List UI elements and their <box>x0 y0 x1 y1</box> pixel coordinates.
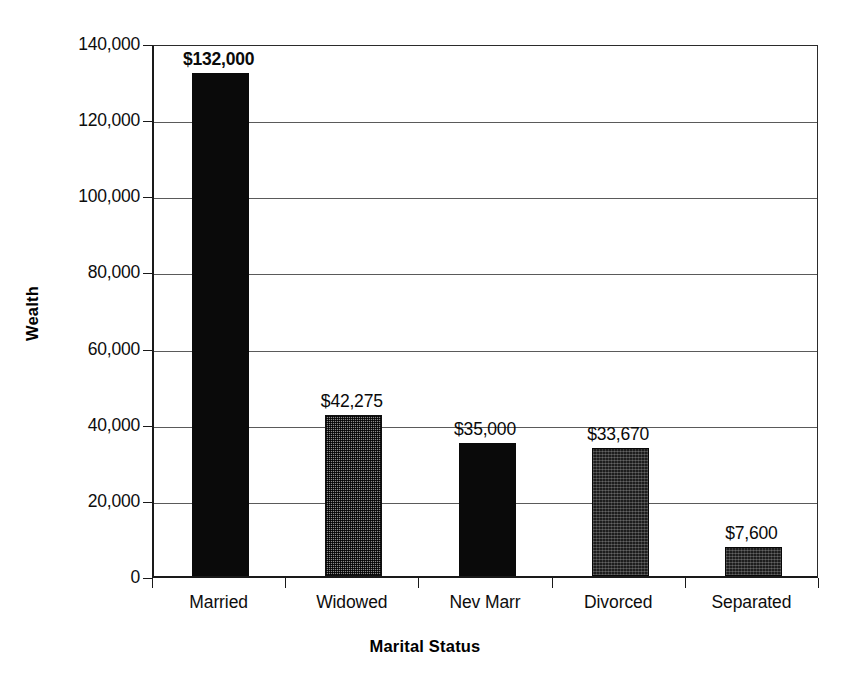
y-tick-mark <box>143 121 152 122</box>
gridline <box>154 351 817 352</box>
x-category-label: Married <box>152 592 285 613</box>
y-tick-label: 60,000 <box>4 339 140 360</box>
y-tick-mark <box>143 45 152 46</box>
x-tick-mark <box>285 578 286 588</box>
gridline <box>154 274 817 275</box>
y-tick-mark <box>143 273 152 274</box>
bar-divorced <box>592 448 649 576</box>
gridline <box>154 198 817 199</box>
x-tick-mark <box>818 578 819 588</box>
y-tick-label: 80,000 <box>4 262 140 283</box>
gridline <box>154 122 817 123</box>
x-tick-mark <box>418 578 419 588</box>
x-axis-title: Marital Status <box>0 637 850 656</box>
x-category-label: Separated <box>685 592 818 613</box>
y-tick-label: 140,000 <box>4 34 140 55</box>
bar-separated <box>725 547 782 576</box>
y-tick-mark <box>143 350 152 351</box>
y-tick-label: 40,000 <box>4 415 140 436</box>
x-category-label: Divorced <box>552 592 685 613</box>
x-tick-mark <box>552 578 553 588</box>
bar-value-label: $35,000 <box>415 419 555 440</box>
y-tick-mark <box>143 502 152 503</box>
x-category-label: Nev Marr <box>418 592 551 613</box>
bar-nev-marr <box>459 443 516 576</box>
x-tick-mark <box>685 578 686 588</box>
y-tick-mark <box>143 426 152 427</box>
bar-widowed <box>325 415 382 576</box>
x-tick-mark <box>152 578 153 588</box>
y-tick-label: 100,000 <box>4 186 140 207</box>
y-axis-title: Wealth <box>0 301 77 341</box>
y-tick-label: 0 <box>4 567 140 588</box>
y-tick-mark <box>143 197 152 198</box>
bar-chart: Wealth 020,00040,00060,00080,000100,0001… <box>0 0 850 679</box>
bar-value-label: $132,000 <box>149 49 289 70</box>
y-tick-label: 120,000 <box>4 110 140 131</box>
y-tick-mark <box>143 578 152 579</box>
bar-married <box>192 73 249 576</box>
x-category-label: Widowed <box>285 592 418 613</box>
bar-value-label: $33,670 <box>548 424 688 445</box>
bar-value-label: $7,600 <box>681 523 821 544</box>
y-tick-label: 20,000 <box>4 491 140 512</box>
plot-area <box>152 45 818 578</box>
bar-value-label: $42,275 <box>282 391 422 412</box>
